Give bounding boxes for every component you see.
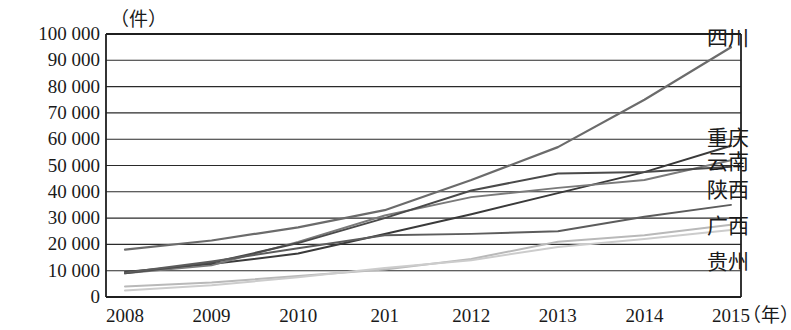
x-tick-label: 2010 [253, 306, 343, 325]
series-label: 重庆 [707, 128, 749, 149]
series-line-3 [125, 167, 731, 273]
y-tick-label: 60 000 [48, 129, 100, 148]
y-tick-label: 70 000 [48, 103, 100, 122]
x-tick-label: 2014 [599, 306, 689, 325]
series-label: 陕西 [707, 180, 749, 201]
y-axis-unit-label: （件） [110, 10, 167, 29]
y-tick-label: 100 000 [38, 24, 100, 43]
y-tick-label: 0 [91, 287, 101, 306]
line-chart: （件） 010 00020 00030 00040 00050 00060 00… [0, 0, 791, 330]
series-line-1 [125, 146, 731, 272]
series-label: 贵州 [707, 252, 749, 273]
y-tick-label: 40 000 [48, 182, 100, 201]
series-line-0 [125, 47, 731, 250]
y-tick-label: 50 000 [48, 156, 100, 175]
x-tick-label: 2013 [513, 306, 603, 325]
x-tick-label: 2009 [167, 306, 257, 325]
series-label: 四川 [707, 28, 749, 49]
series-label: 云南 [707, 152, 749, 173]
y-tick-label: 30 000 [48, 208, 100, 227]
gridlines [106, 34, 741, 297]
x-tick-label: 2012 [426, 306, 516, 325]
y-tick-label: 90 000 [48, 50, 100, 69]
x-axis-unit-label: （年） [742, 306, 791, 325]
x-tick-label: 201 [340, 306, 430, 325]
y-tick-label: 20 000 [48, 234, 100, 253]
y-tick-label: 10 000 [48, 261, 100, 280]
data-series [125, 47, 731, 290]
x-tick-label: 2008 [80, 306, 170, 325]
chart-canvas [0, 0, 791, 330]
series-label: 广西 [707, 216, 749, 237]
y-tick-label: 80 000 [48, 77, 100, 96]
